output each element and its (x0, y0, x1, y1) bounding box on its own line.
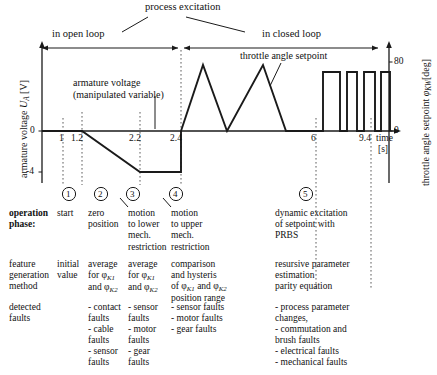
col5-feature-line2: estimation (275, 270, 315, 280)
col5-feature: resursive parameter estimation parity eq… (275, 259, 395, 293)
time-tick-2p2: 2.2 (129, 133, 141, 144)
col2-fault-0: - contact faults (88, 302, 130, 324)
throttle-annotation-leader (270, 63, 281, 86)
col3-feature-line2: for φ (128, 270, 147, 280)
phase-marker-leaders (120, 198, 171, 207)
col3-feature-line1: average (128, 259, 158, 269)
col3-fault-1: - motor faults (128, 324, 170, 346)
col5-feature-line1: resursive parameter (275, 259, 350, 269)
phase-marker-5: 5 (303, 189, 308, 199)
col4-feature: comparison and hysteris of φK1 and φK2 p… (171, 259, 237, 304)
open-loop-label: in open loop (52, 28, 105, 40)
time-tick-1p2: 1.2 (71, 133, 83, 144)
col2-feature-sub3: K2 (110, 286, 118, 293)
row-label-feature-line2: generation (9, 270, 49, 281)
col3-feature-line3: and φ (128, 282, 150, 292)
row-label-feature-line3: method (9, 281, 38, 292)
row-label-feature-line1: feature (9, 259, 35, 270)
time-axis-label-line2: [s] (378, 144, 388, 155)
col4-feature-line3b: and φ (195, 281, 219, 291)
col2-fault-1: - cable faults (88, 324, 130, 346)
armature-voltage-annotation-line2: (manipulated variable) (73, 89, 164, 100)
col5-feature-line3: parity equation (275, 281, 332, 291)
right-axis-tick-0: 0 (394, 125, 399, 136)
left-axis-tick-minus4: -4 (26, 166, 34, 177)
diagram-root: process excitation in open loop in close… (0, 0, 437, 375)
row-label-operation-phase-line1: operation (9, 208, 48, 219)
closed-loop-label: in closed loop (262, 28, 321, 40)
time-tick-2p4: 2.4 (170, 133, 182, 144)
col4-feature-line2: and hysteris (171, 270, 217, 280)
col3-fault-2: - gear faults (128, 346, 170, 368)
col2-fault-2: - sensor faults (88, 346, 130, 368)
col5-fault-0: - process parameter changes, (275, 302, 395, 324)
row-label-faults-line1: detected (9, 302, 41, 313)
time-axis-label-line1: time (376, 133, 393, 144)
right-axis-label: throttle angle setpoint φKW[deg] (420, 59, 433, 186)
col2-feature-sub2: K1 (107, 274, 115, 281)
col4-feature-line3: of φ (171, 281, 187, 291)
time-tick-1: 1 (59, 133, 64, 144)
col4-feature-sub3a: K1 (187, 285, 195, 292)
col4-feature-sub3b: K2 (219, 285, 227, 292)
col3-fault-0: - sensor faults (128, 302, 170, 324)
phase-marker-1: 1 (66, 189, 71, 199)
col1-phase: start (57, 208, 85, 219)
left-axis-tick-0: 0 (30, 125, 35, 136)
col2-phase: zero position (88, 208, 128, 230)
phase-marker-4: 4 (173, 189, 178, 199)
col5-fault-3: - mechanical faults (275, 357, 395, 368)
col4-fault-0: - sensor faults (171, 302, 241, 313)
col5-fault-2: - electrical faults (275, 346, 395, 357)
phase-marker-2: 2 (98, 189, 103, 199)
right-axis-symbol-sub: KW (425, 80, 433, 91)
throttle-setpoint-annotation: throttle angle setpoint (240, 50, 327, 61)
time-tick-9p4: 9.4 (359, 133, 371, 144)
process-excitation-title: process excitation (145, 1, 221, 13)
throttle-setpoint-ramps (181, 65, 316, 131)
col4-feature-line1: comparison (171, 259, 215, 269)
left-axis-symbol: U (18, 101, 29, 108)
col2-feature-line3: and φ (88, 282, 110, 292)
col2-feature-line2: for φ (88, 270, 107, 280)
right-axis-label-main: throttle angle setpoint (420, 99, 431, 186)
left-axis (39, 41, 45, 183)
col3-feature-sub3: K2 (150, 286, 158, 293)
right-axis-unit: [deg] (420, 59, 431, 80)
col4-fault-1: - motor faults (171, 313, 241, 324)
col3-feature-sub2: K1 (147, 274, 155, 281)
row-label-operation-phase-line2: phase: (9, 219, 35, 230)
left-axis-unit: [V] (18, 80, 29, 94)
col2-feature-line1: average (88, 259, 118, 269)
right-axis-symbol: φ (420, 91, 431, 97)
col4-fault-2: - gear faults (171, 324, 241, 335)
left-axis-symbol-sub: A (23, 96, 31, 100)
row-label-faults-line2: faults (9, 313, 30, 324)
right-axis-tick-80: 80 (394, 56, 404, 67)
armature-voltage-annotation-line1: armature voltage (73, 77, 140, 88)
process-excitation-leaders (122, 17, 245, 32)
throttle-setpoint-prbs (316, 72, 390, 131)
col3-feature: average for φK1 and φK2 (128, 259, 172, 294)
col1-feature: initial value (57, 259, 87, 281)
phase-marker-3: 3 (130, 189, 135, 199)
col2-feature: average for φK1 and φK2 (88, 259, 132, 294)
col5-fault-1: - commutation and brush faults (275, 324, 395, 346)
left-axis-label: armature voltage UA [V] (18, 80, 31, 178)
col4-phase: motion to upper mech. restriction (171, 208, 219, 253)
time-tick-6: 6 (311, 133, 316, 144)
col3-phase: motion to lower mech. restriction (128, 208, 172, 253)
col5-phase: dynamic excitation of setpoint with PRBS (275, 208, 385, 242)
span-arrows (42, 45, 378, 50)
